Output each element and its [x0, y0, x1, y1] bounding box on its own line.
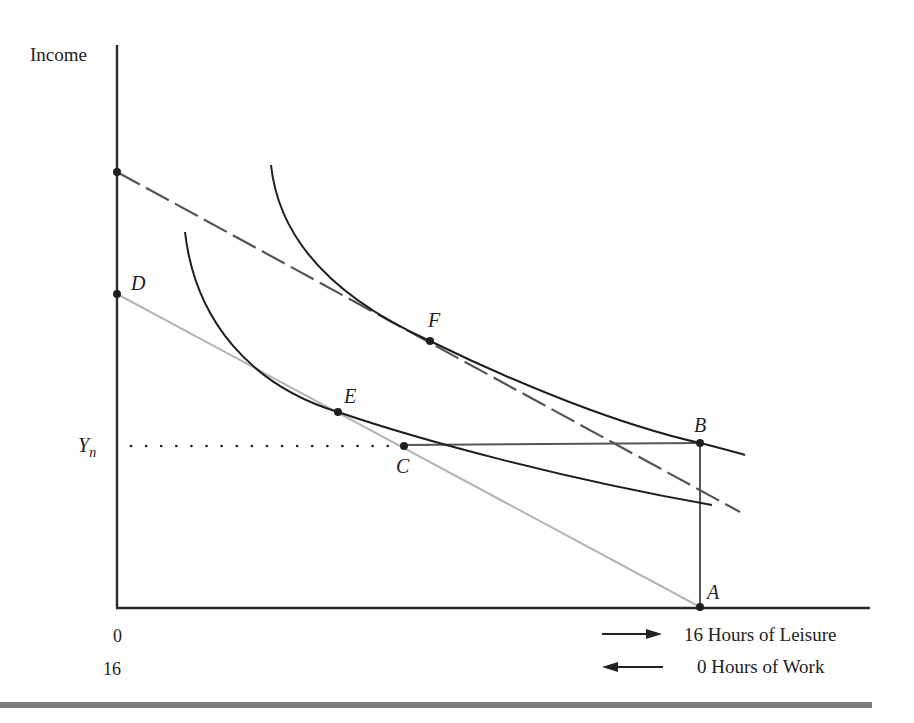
legend-work-text: 0 Hours of Work — [697, 657, 824, 676]
yn-label-main: Y — [78, 434, 89, 456]
point-f — [426, 337, 434, 345]
label-b: B — [694, 415, 706, 435]
x-tick-work-16: 16 — [103, 660, 121, 678]
x-tick-leisure-0: 0 — [113, 627, 122, 645]
bottom-rule-divider — [0, 702, 872, 708]
lower-indifference-curve — [185, 232, 712, 505]
label-c: C — [396, 456, 409, 476]
point-b — [696, 439, 704, 447]
point-a — [696, 603, 704, 611]
arrow-right-icon — [602, 629, 662, 639]
yn-label-subscript: n — [89, 445, 96, 460]
label-e: E — [344, 386, 356, 406]
upper-indifference-curve — [271, 165, 745, 455]
point-e — [334, 408, 342, 416]
point-top-intercept — [113, 168, 121, 176]
labor-leisure-diagram — [0, 0, 914, 723]
y-axis-label: Income — [30, 45, 87, 64]
arrow-left-icon — [602, 662, 663, 672]
point-d — [113, 290, 121, 298]
label-d: D — [131, 273, 145, 293]
gray-budget-line — [117, 294, 700, 607]
point-c — [400, 442, 408, 450]
legend-leisure-text: 16 Hours of Leisure — [684, 625, 837, 644]
label-a: A — [707, 582, 719, 602]
yn-label: Yn — [78, 435, 96, 455]
label-f: F — [428, 310, 440, 330]
